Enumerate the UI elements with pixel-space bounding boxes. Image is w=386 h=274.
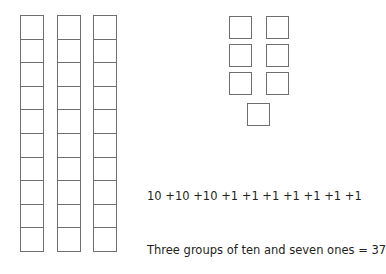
ten-rod-cell (93, 227, 117, 252)
one-cube (266, 72, 289, 95)
ten-rod-cell (57, 86, 81, 111)
one-cube (266, 44, 289, 67)
ten-rod-cell (57, 15, 81, 40)
ten-rod-cell (57, 227, 81, 252)
ten-rod-cell (20, 86, 44, 111)
ten-rod-cell (57, 180, 81, 205)
ten-rod-cell (93, 39, 117, 64)
ten-rod-cell (20, 62, 44, 87)
ten-rod-cell (20, 204, 44, 229)
ten-rod-cell (93, 157, 117, 182)
ten-rod-cell (93, 15, 117, 40)
ten-rod (93, 15, 117, 252)
ten-rod-cell (93, 62, 117, 87)
ten-rod (20, 15, 44, 252)
ten-rod-cell (93, 86, 117, 111)
ten-rod-cell (20, 133, 44, 158)
ten-rod-cell (93, 204, 117, 229)
ten-rod-cell (93, 180, 117, 205)
ten-rod-cell (20, 15, 44, 40)
ten-rod (57, 15, 81, 252)
summary-sentence: Three groups of ten and seven ones = 37 (147, 243, 386, 257)
ten-rod-cell (57, 39, 81, 64)
one-cube (229, 44, 252, 67)
ten-rod-cell (93, 109, 117, 134)
ten-rod-cell (20, 157, 44, 182)
ten-rod-cell (93, 133, 117, 158)
ten-rod-cell (57, 204, 81, 229)
one-cube (229, 72, 252, 95)
ten-rod-cell (20, 180, 44, 205)
one-cube (247, 103, 270, 126)
addition-equation: 10 +10 +10 +1 +1 +1 +1 +1 +1 +1 (147, 189, 362, 203)
one-cube (229, 16, 252, 39)
ten-rod-cell (57, 62, 81, 87)
ten-rod-cell (57, 109, 81, 134)
ten-rod-cell (20, 109, 44, 134)
one-cube (266, 16, 289, 39)
ten-rod-cell (57, 157, 81, 182)
ten-rod-cell (57, 133, 81, 158)
ten-rod-cell (20, 227, 44, 252)
ten-rod-cell (20, 39, 44, 64)
